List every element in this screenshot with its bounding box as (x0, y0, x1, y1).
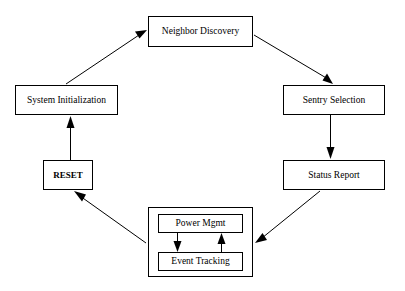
node-label-sentry-selection: Sentry Selection (303, 95, 366, 105)
flowchart-canvas: Neighbor Discovery System Initialization… (0, 0, 405, 291)
node-system-initialization[interactable]: System Initialization (16, 86, 118, 115)
edge-reset-to-system-init (67, 116, 75, 160)
flowchart-diagram: Neighbor Discovery System Initialization… (0, 0, 405, 291)
node-label-system-initialization: System Initialization (27, 95, 106, 105)
node-label-reset: RESET (53, 170, 83, 180)
edge-node-operation-to-reset (74, 191, 146, 243)
edge-neighbor-discovery-to-sentry-selection (254, 35, 333, 84)
arrowhead-icon (174, 241, 182, 252)
edge-sentry-selection-to-status-report (327, 115, 335, 159)
edge-power-mgmt-to-event-tracking (174, 233, 182, 252)
arrowhead-icon (74, 191, 86, 202)
node-label-status-report: Status Report (308, 170, 360, 180)
arrowhead-icon (67, 116, 75, 128)
arrowhead-icon (218, 233, 226, 244)
arrowhead-icon (323, 74, 334, 85)
edge-system-init-to-neighbor-discovery (66, 30, 147, 84)
edge-event-tracking-to-power-mgmt (218, 233, 226, 252)
node-reset[interactable]: RESET (44, 161, 93, 190)
node-status-report[interactable]: Status Report (284, 161, 385, 190)
node-neighbor-discovery[interactable]: Neighbor Discovery (149, 17, 253, 47)
node-sentry-selection[interactable]: Sentry Selection (284, 86, 385, 115)
node-label-event-tracking: Event Tracking (171, 256, 230, 266)
edge-status-report-to-node-operation (255, 191, 320, 243)
arrowhead-icon (327, 147, 335, 159)
node-label-power-mgmt: Power Mgmt (176, 218, 226, 228)
arrowhead-icon (135, 30, 147, 39)
node-event-tracking[interactable]: Event Tracking (159, 253, 243, 271)
node-label-neighbor-discovery: Neighbor Discovery (162, 26, 240, 36)
arrowhead-icon (255, 233, 267, 243)
node-power-mgmt[interactable]: Power Mgmt (159, 215, 243, 233)
